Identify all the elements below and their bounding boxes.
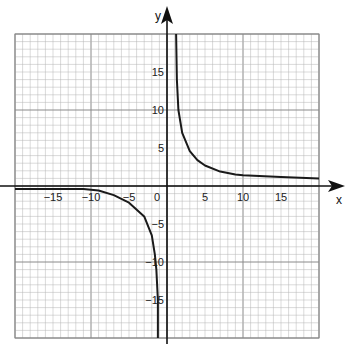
y-tick-label: 5 xyxy=(158,142,164,154)
y-tick-label: −5 xyxy=(151,218,164,230)
y-axis-label: y xyxy=(155,9,161,23)
x-tick-label: −15 xyxy=(44,191,63,203)
y-tick-label: −15 xyxy=(145,294,164,306)
chart-plot: x y −15−10−505101515105−5−10−15 xyxy=(0,0,355,348)
x-tick-label: 5 xyxy=(202,191,208,203)
x-tick-label: 0 xyxy=(154,191,160,203)
x-tick-label: 15 xyxy=(275,191,287,203)
x-axis-label: x xyxy=(336,193,342,207)
x-tick-label: 10 xyxy=(237,191,249,203)
y-tick-label: 15 xyxy=(152,66,164,78)
x-tick-label: −10 xyxy=(82,191,101,203)
y-tick-label: 10 xyxy=(152,104,164,116)
